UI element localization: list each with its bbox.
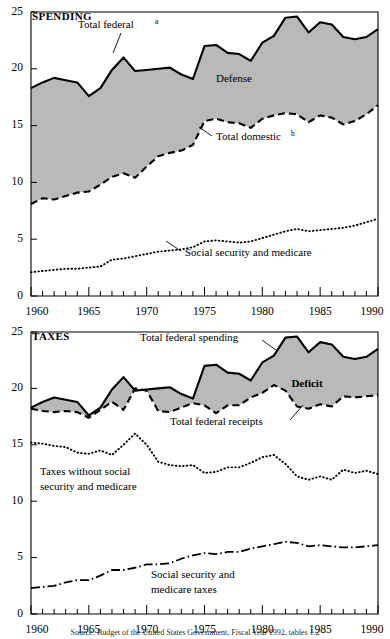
annotation-ss-medicare-taxes: Social security and medicare taxes — [151, 568, 235, 595]
leader-line-total-federal-spending — [262, 340, 276, 350]
annotation-defense-label: Defense — [216, 72, 252, 84]
spending-chart-svg: 05101520251960196519701975198019851990 S… — [0, 0, 390, 320]
annotation-total-federal-superscript: a — [155, 17, 159, 26]
y-tick-label-20: 20 — [12, 61, 24, 73]
annotation-ss-medicare-taxes-line1: Social security and — [151, 568, 235, 580]
annotation-total-federal-spending-label: Total federal spending — [140, 331, 239, 343]
annotation-social-security-medicare: Social security and medicare — [166, 241, 312, 258]
x-tick-label-1985: 1985 — [309, 305, 332, 317]
x-tick-label-1975: 1975 — [193, 305, 216, 317]
taxes-chart-svg: 05101520251960196519701975198019851990 T… — [0, 320, 390, 639]
x-tick-label-1990: 1990 — [361, 305, 384, 317]
spending-chart-panel: 05101520251960196519701975198019851990 S… — [0, 0, 390, 320]
annotation-total-domestic: Total domestic b — [199, 127, 295, 142]
annotation-taxes-without-ss-line1: Taxes without social — [40, 465, 130, 477]
y-tick-label-20: 20 — [12, 381, 24, 393]
annotation-taxes-without-ss: Taxes without social security and medica… — [40, 465, 137, 492]
leader-line-total-domestic — [199, 127, 212, 136]
y-tick-label-5: 5 — [17, 550, 23, 562]
taxes-chart-panel: 05101520251960196519701975198019851990 T… — [0, 320, 390, 639]
annotation-total-federal-receipts-label: Total federal receipts — [170, 415, 263, 427]
y-tick-label-10: 10 — [12, 494, 24, 506]
x-tick-label-1960: 1960 — [26, 305, 49, 317]
annotation-deficit-label: Deficit — [291, 377, 322, 389]
annotation-total-federal-receipts: Total federal receipts — [170, 405, 303, 427]
y-tick-label-10: 10 — [12, 175, 24, 187]
annotation-total-domestic-label: Total domestic — [216, 130, 281, 142]
x-tick-label-1980: 1980 — [251, 305, 274, 317]
y-tick-label-15: 15 — [12, 118, 24, 130]
y-tick-label-0: 0 — [17, 289, 23, 301]
y-tick-label-0: 0 — [17, 607, 23, 619]
y-tick-label-25: 25 — [12, 5, 24, 17]
filled-band-spending — [31, 17, 378, 204]
annotation-ss-medicare-taxes-line2: medicare taxes — [151, 583, 217, 595]
x-tick-label-1965: 1965 — [77, 305, 100, 317]
y-tick-label-25: 25 — [12, 325, 24, 337]
y-tick-label-5: 5 — [17, 232, 23, 244]
annotation-total-domestic-superscript: b — [291, 129, 295, 138]
source-caption: Source: Budget of the United States Gove… — [0, 628, 390, 638]
annotation-taxes-without-ss-line2: security and medicare — [40, 480, 137, 492]
annotation-social-security-medicare-label: Social security and medicare — [185, 246, 312, 258]
annotation-total-federal-spending: Total federal spending — [140, 331, 276, 350]
series-social-security-and-medicare-taxes — [31, 542, 378, 588]
annotation-total-federal-label: Total federal — [78, 18, 134, 30]
x-tick-label-1970: 1970 — [135, 305, 158, 317]
leader-line-total-federal — [113, 33, 121, 53]
annotation-total-federal: Total federal a — [78, 17, 159, 53]
taxes-panel-title: TAXES — [32, 330, 70, 342]
y-tick-label-15: 15 — [12, 437, 24, 449]
